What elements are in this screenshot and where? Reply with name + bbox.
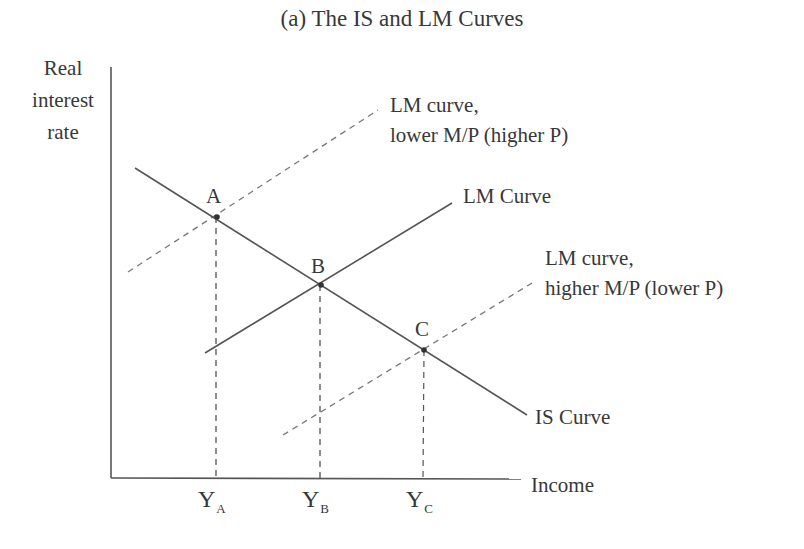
tick-y-c: YC [406,486,433,517]
tick-sub: C [424,501,433,516]
lm-curve-lower-mp [128,110,378,272]
lm-curve-lower-mp-label: LM curve, lower M/P (higher P) [390,90,568,150]
point-b-marker [318,282,324,288]
point-c-marker [421,347,427,353]
tick-sub: A [216,501,225,516]
lm-curve-label: LM Curve [463,184,551,208]
point-a-label: A [206,184,221,209]
point-a-marker [214,214,220,220]
tick-main: Y [302,486,319,512]
lm-upper-label-line1: LM curve, [390,90,568,120]
lm-lower-label-line1: LM curve, [545,243,723,273]
tick-y-a: YA [198,486,226,517]
lm-lower-label-line2: higher M/P (lower P) [545,273,723,303]
point-c-label: C [415,317,429,342]
tick-sub: B [320,501,329,516]
x-axis [111,478,521,479]
lm-curve-higher-mp-label: LM curve, higher M/P (lower P) [545,243,723,303]
tick-main: Y [198,486,215,512]
lm-upper-label-line2: lower M/P (higher P) [390,120,568,150]
lm-curve-higher-mp [283,283,532,435]
drop-line-c [423,350,424,478]
tick-main: Y [406,486,423,512]
x-axis-label: Income [531,473,594,497]
point-b-label: B [311,254,325,279]
tick-y-b: YB [302,486,329,517]
is-curve-label: IS Curve [535,405,610,429]
